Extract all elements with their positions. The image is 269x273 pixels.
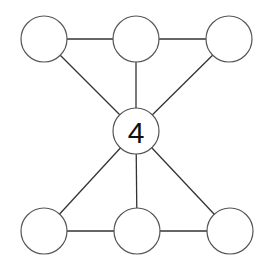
nodes-group: 4: [21, 16, 253, 254]
node-circle: [21, 208, 67, 254]
node-top-left: [21, 16, 67, 62]
node-circle: [206, 16, 252, 62]
node-circle: [207, 208, 253, 254]
node-circle: [114, 208, 160, 254]
node-circle: [113, 16, 159, 62]
node-circle: [21, 16, 67, 62]
node-label: 4: [128, 116, 145, 149]
node-bottom-middle: [114, 208, 160, 254]
graph-diagram: 4: [0, 0, 269, 273]
node-bottom-right: [207, 208, 253, 254]
node-center: 4: [113, 108, 159, 154]
node-top-right: [206, 16, 252, 62]
node-bottom-left: [21, 208, 67, 254]
node-top-middle: [113, 16, 159, 62]
